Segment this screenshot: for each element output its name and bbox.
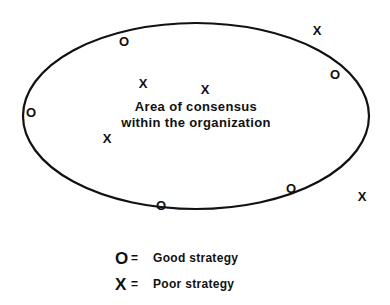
marker-x-outside-bottom-right: X [358, 190, 367, 203]
marker-x-outside-top-right: X [313, 24, 322, 37]
consensus-diagram: Area of consensus within the organizatio… [0, 0, 390, 305]
legend-label-poor-strategy: Poor strategy [153, 278, 234, 290]
legend-symbol-x-icon: X [115, 276, 131, 293]
marker-x-inner-lower-left: X [103, 132, 112, 145]
legend-row-good-strategy: O = Good strategy [115, 245, 345, 271]
legend-row-poor-strategy: X = Poor strategy [115, 271, 345, 297]
consensus-label-line-1: Area of consensus [121, 99, 271, 115]
marker-o-top-left: O [119, 35, 129, 48]
consensus-area-label: Area of consensus within the organizatio… [121, 99, 271, 130]
legend: O = Good strategy X = Poor strategy [115, 245, 345, 297]
marker-o-right: O [330, 68, 340, 81]
marker-o-bottom: O [156, 199, 166, 212]
legend-equals-sign-good: = [131, 252, 153, 264]
marker-o-bottom-right: O [286, 182, 296, 195]
marker-x-inner-upper-left: X [139, 77, 148, 90]
marker-x-inner-upper-right: X [201, 83, 210, 96]
legend-symbol-o-icon: O [115, 250, 131, 267]
legend-equals-sign-poor: = [131, 278, 153, 290]
marker-o-left: O [26, 106, 36, 119]
legend-label-good-strategy: Good strategy [153, 252, 238, 264]
consensus-label-line-2: within the organization [121, 114, 271, 130]
